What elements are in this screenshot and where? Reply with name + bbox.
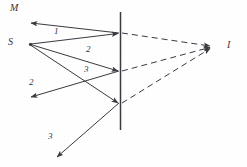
reflected-ray-3 bbox=[57, 103, 119, 157]
ray-2-label: 2 bbox=[86, 45, 91, 54]
incident-ray-1 bbox=[31, 34, 118, 45]
ray-3-label: 3 bbox=[84, 65, 89, 74]
reflected-ray-3-label: 3 bbox=[48, 132, 53, 141]
virtual-ray-3 bbox=[122, 49, 210, 103]
virtual-ray-2 bbox=[122, 47, 210, 71]
reflected-ray-2-label: 2 bbox=[29, 78, 34, 87]
image-label: I bbox=[227, 40, 231, 50]
incident-ray-3 bbox=[31, 45, 118, 103]
mirror-label: M bbox=[10, 3, 19, 13]
source-label: S bbox=[8, 37, 13, 47]
ray-diagram-figure: M S I 1 2 3 2 3 bbox=[0, 0, 247, 167]
ray-1-label: 1 bbox=[54, 27, 59, 36]
virtual-ray-1 bbox=[122, 33, 210, 46]
ray-diagram-canvas bbox=[0, 0, 247, 167]
incident-ray-2 bbox=[31, 45, 118, 71]
reflected-ray-1 bbox=[31, 23, 119, 33]
source-point-marker bbox=[29, 43, 32, 46]
